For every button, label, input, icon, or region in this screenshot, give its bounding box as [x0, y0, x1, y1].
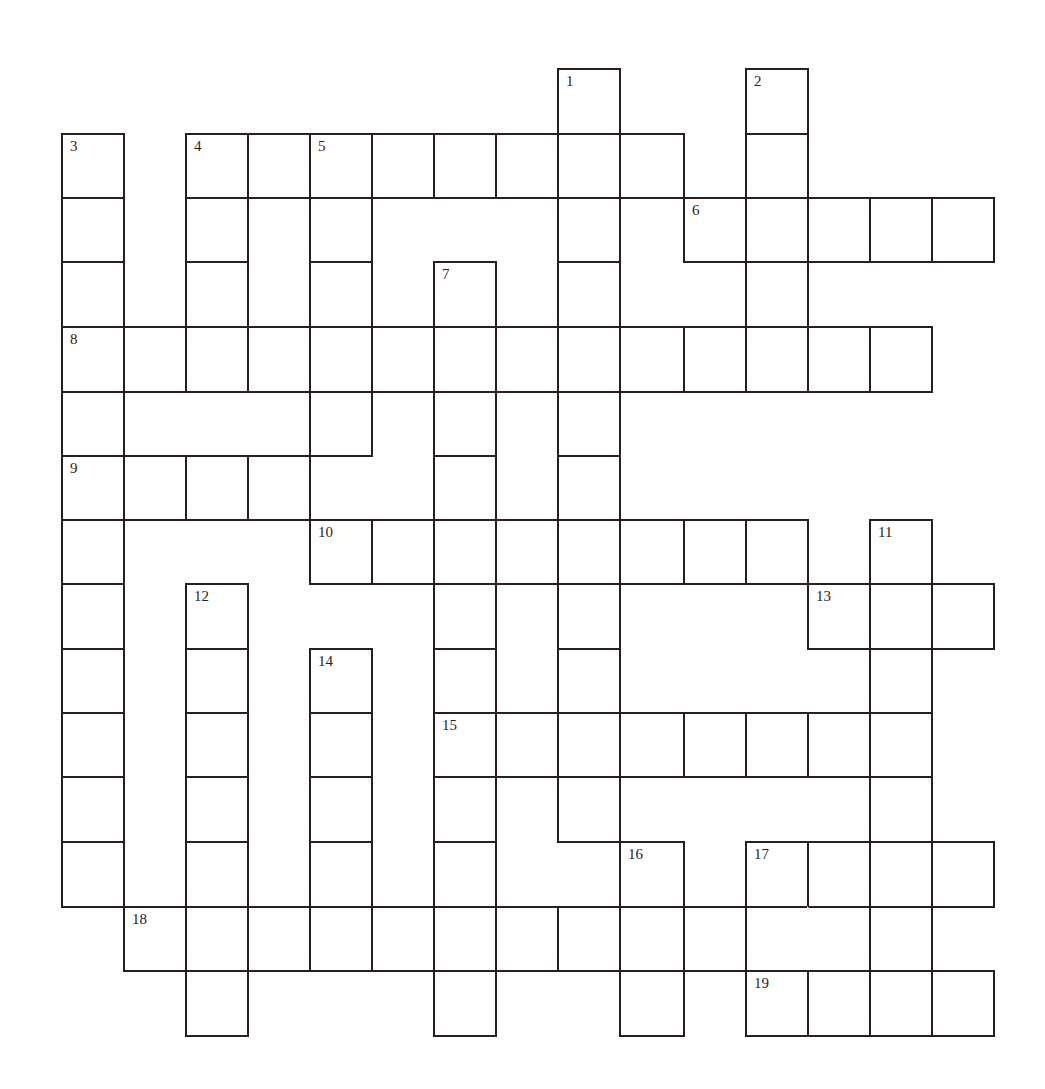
crossword-cell[interactable]: 7	[433, 261, 497, 328]
crossword-cell[interactable]: 6	[683, 197, 747, 263]
crossword-cell[interactable]	[807, 906, 871, 972]
crossword-cell[interactable]	[433, 648, 497, 714]
crossword-cell[interactable]	[185, 841, 249, 908]
crossword-cell[interactable]	[371, 906, 435, 972]
crossword-cell[interactable]: 13	[807, 583, 871, 650]
crossword-cell[interactable]	[619, 519, 685, 585]
crossword-cell[interactable]: 9	[61, 455, 125, 521]
crossword-cell[interactable]: 10	[309, 519, 373, 585]
crossword-cell[interactable]	[495, 326, 559, 393]
crossword-cell[interactable]	[61, 712, 125, 778]
crossword-cell[interactable]	[619, 712, 685, 778]
crossword-cell[interactable]	[433, 133, 497, 199]
crossword-cell[interactable]	[247, 455, 311, 521]
crossword-cell[interactable]	[683, 906, 747, 972]
crossword-cell[interactable]	[557, 455, 621, 521]
crossword-cell[interactable]	[309, 197, 373, 263]
crossword-cell[interactable]	[807, 841, 871, 908]
crossword-cell[interactable]	[61, 648, 125, 714]
crossword-cell[interactable]	[433, 970, 497, 1037]
crossword-cell[interactable]	[185, 712, 249, 778]
crossword-cell[interactable]	[185, 326, 249, 393]
crossword-cell[interactable]	[745, 261, 809, 328]
crossword-cell[interactable]	[185, 197, 249, 263]
crossword-cell[interactable]	[495, 712, 559, 778]
crossword-cell[interactable]	[619, 326, 685, 393]
crossword-cell[interactable]	[869, 776, 933, 843]
crossword-cell[interactable]	[185, 648, 249, 714]
crossword-cell[interactable]	[931, 841, 995, 908]
crossword-cell[interactable]	[309, 391, 373, 457]
crossword-cell[interactable]: 19	[745, 970, 809, 1037]
crossword-cell[interactable]	[61, 261, 125, 328]
crossword-cell[interactable]	[807, 197, 871, 263]
crossword-cell[interactable]	[807, 712, 871, 778]
crossword-cell[interactable]	[931, 583, 995, 650]
crossword-cell[interactable]: 12	[185, 583, 249, 650]
crossword-cell[interactable]	[869, 583, 933, 650]
crossword-cell[interactable]: 17	[745, 841, 809, 908]
crossword-cell[interactable]	[683, 519, 747, 585]
crossword-cell[interactable]	[557, 261, 621, 328]
crossword-cell[interactable]: 1	[557, 68, 621, 135]
crossword-cell[interactable]	[683, 326, 747, 393]
crossword-cell[interactable]	[433, 455, 497, 521]
crossword-cell[interactable]	[247, 326, 311, 393]
crossword-cell[interactable]	[61, 841, 125, 908]
crossword-cell[interactable]	[185, 906, 249, 972]
crossword-cell[interactable]	[869, 841, 933, 908]
crossword-cell[interactable]	[371, 519, 435, 585]
crossword-cell[interactable]	[557, 197, 621, 263]
crossword-cell[interactable]	[309, 261, 373, 328]
crossword-cell[interactable]	[61, 776, 125, 843]
crossword-cell[interactable]	[557, 712, 621, 778]
crossword-cell[interactable]	[931, 197, 995, 263]
crossword-cell[interactable]	[745, 133, 809, 199]
crossword-cell[interactable]	[807, 326, 871, 393]
crossword-cell[interactable]	[433, 841, 497, 908]
crossword-cell[interactable]	[745, 906, 809, 972]
crossword-cell[interactable]	[185, 455, 249, 521]
crossword-cell[interactable]	[309, 906, 373, 972]
crossword-cell[interactable]: 15	[433, 712, 497, 778]
crossword-cell[interactable]	[61, 391, 125, 457]
crossword-cell[interactable]	[495, 133, 559, 199]
crossword-cell[interactable]	[745, 712, 809, 778]
crossword-cell[interactable]	[869, 326, 933, 393]
crossword-cell[interactable]	[433, 906, 497, 972]
crossword-cell[interactable]	[745, 519, 809, 585]
crossword-cell[interactable]: 18	[123, 906, 187, 972]
crossword-cell[interactable]	[123, 455, 187, 521]
crossword-cell[interactable]	[619, 133, 685, 199]
crossword-cell[interactable]	[557, 326, 621, 393]
crossword-cell[interactable]	[433, 776, 497, 843]
crossword-cell[interactable]	[309, 841, 373, 908]
crossword-cell[interactable]	[557, 519, 621, 585]
crossword-cell[interactable]	[683, 712, 747, 778]
crossword-cell[interactable]	[309, 776, 373, 843]
crossword-cell[interactable]	[433, 391, 497, 457]
crossword-cell[interactable]	[619, 970, 685, 1037]
crossword-cell[interactable]	[61, 519, 125, 585]
crossword-cell[interactable]: 16	[619, 841, 685, 908]
crossword-cell[interactable]	[807, 970, 871, 1037]
crossword-cell[interactable]	[495, 519, 559, 585]
crossword-cell[interactable]	[557, 133, 621, 199]
crossword-cell[interactable]	[433, 326, 497, 393]
crossword-cell[interactable]	[745, 197, 809, 263]
crossword-cell[interactable]: 14	[309, 648, 373, 714]
crossword-cell[interactable]	[619, 906, 685, 972]
crossword-cell[interactable]	[869, 648, 933, 714]
crossword-cell[interactable]: 4	[185, 133, 249, 199]
crossword-cell[interactable]	[371, 133, 435, 199]
crossword-cell[interactable]	[557, 583, 621, 650]
crossword-cell[interactable]	[433, 583, 497, 650]
crossword-cell[interactable]	[61, 197, 125, 263]
crossword-cell[interactable]	[61, 583, 125, 650]
crossword-cell[interactable]	[557, 391, 621, 457]
crossword-cell[interactable]	[123, 326, 187, 393]
crossword-cell[interactable]: 8	[61, 326, 125, 393]
crossword-cell[interactable]: 5	[309, 133, 373, 199]
crossword-cell[interactable]	[869, 906, 933, 972]
crossword-cell[interactable]	[309, 326, 373, 393]
